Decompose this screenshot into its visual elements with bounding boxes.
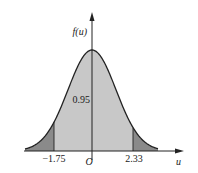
y-axis-arrow-icon — [90, 12, 95, 21]
center-area-label: 0.95 — [73, 94, 91, 105]
left-bound-label: −1.75 — [42, 153, 65, 164]
x-axis-arrow-icon — [175, 149, 184, 154]
y-axis-label: f(u) — [73, 26, 88, 38]
tail-left-region — [25, 122, 54, 151]
right-bound-label: 2.33 — [125, 153, 143, 164]
center-region — [54, 50, 133, 151]
x-axis-label: u — [176, 156, 181, 167]
normal-distribution-diagram: f(u) u O 0.95 −1.75 2.33 — [0, 0, 198, 173]
origin-label: O — [85, 156, 92, 167]
